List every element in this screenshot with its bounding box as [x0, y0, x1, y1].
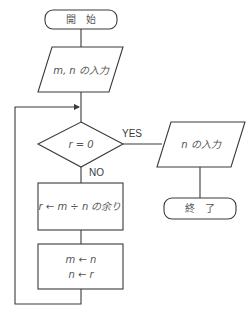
process-remainder-label: r ← m ÷ n の余り [39, 201, 122, 212]
start-label: 開 始 [66, 13, 96, 25]
end-label: 終 了 [185, 202, 215, 214]
start-terminal: 開 始 [45, 10, 117, 29]
process-swap-line1: m ← n [66, 254, 97, 265]
output-n-parallelogram: n の入力 [157, 122, 245, 167]
output-n-label: n の入力 [181, 139, 222, 150]
process-swap-line2: n ← r [68, 269, 94, 280]
no-label: NO [89, 167, 104, 178]
end-terminal: 終 了 [164, 198, 236, 219]
decision-label: r = 0 [68, 139, 93, 150]
input-mn-parallelogram: m, n の入力 [38, 47, 123, 92]
flowchart: 開 始 m, n の入力 r = 0 YES NO n の入力 終 了 r ← … [0, 0, 252, 314]
input-mn-label: m, n の入力 [53, 65, 110, 76]
process-remainder-box: r ← m ÷ n の余り [38, 183, 123, 230]
decision-diamond: r = 0 [38, 122, 123, 167]
process-swap-box: m ← n n ← r [38, 244, 123, 289]
yes-label: YES [122, 128, 142, 139]
